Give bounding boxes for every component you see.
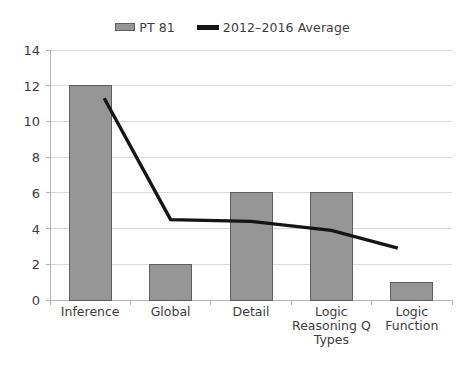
- y-axis-tick-label: 0: [10, 293, 40, 308]
- x-axis-category-label: LogicFunction: [372, 305, 452, 333]
- y-axis-tick-label: 10: [10, 114, 40, 129]
- x-axis-category-label-line: Inference: [50, 305, 130, 319]
- x-axis-category-label-line: Types: [291, 333, 371, 347]
- bar: [230, 193, 272, 300]
- plot-area: 14121086420 InferenceGlobalDetailLogicRe…: [0, 0, 465, 374]
- y-axis-tick-label: 6: [10, 185, 40, 200]
- bar: [391, 282, 433, 300]
- y-axis-tick-label: 4: [10, 221, 40, 236]
- x-axis-category-label: Detail: [211, 305, 291, 319]
- bar: [310, 193, 352, 300]
- x-axis-category-label-line: Reasoning Q: [291, 319, 371, 333]
- x-axis-category-label-line: Logic: [291, 305, 371, 319]
- y-axis-tick-label: 8: [10, 150, 40, 165]
- y-axis-tick-label: 2: [10, 257, 40, 272]
- x-axis-category-label: Inference: [50, 305, 130, 319]
- x-axis-category-label: LogicReasoning QTypes: [291, 305, 371, 347]
- bar: [69, 86, 111, 300]
- x-axis-category-label-line: Function: [372, 319, 452, 333]
- y-axis-tick-label: 12: [10, 78, 40, 93]
- x-axis-category-label-line: Logic: [372, 305, 452, 319]
- x-axis-category-label-line: Global: [130, 305, 210, 319]
- y-axis-tick-label: 14: [10, 43, 40, 58]
- x-axis-category-label-line: Detail: [211, 305, 291, 319]
- chart-container: PT 81 2012–2016 Average 14121086420 Infe…: [0, 0, 465, 374]
- x-axis-category-label: Global: [130, 305, 210, 319]
- bar: [150, 264, 192, 300]
